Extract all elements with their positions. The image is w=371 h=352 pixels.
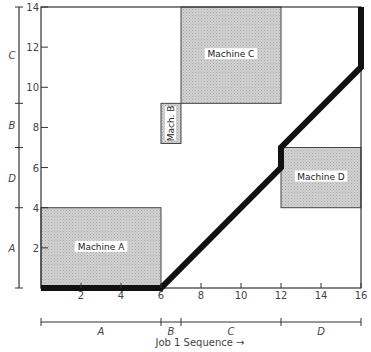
x-tick-label: 14 (315, 290, 328, 301)
y-sequence-label: C (9, 50, 16, 61)
y-tick-label: 10 (26, 82, 39, 93)
y-tick-label: 6 (33, 163, 39, 174)
gantt-diagram: Machine AMach. BMachine CMachine D 24681… (0, 0, 371, 352)
x-tick-label: 6 (158, 290, 164, 301)
x-tick-label: 16 (355, 290, 368, 301)
machine-label: Mach. B (166, 105, 176, 141)
x-sequence-label: D (317, 326, 325, 337)
x-tick-label: 4 (118, 290, 124, 301)
machine-label: Machine A (78, 242, 126, 252)
x-tick-label: 12 (275, 290, 288, 301)
y-sequence-label: B (9, 120, 16, 131)
x-tick-label: 8 (198, 290, 204, 301)
x-tick-label: 10 (235, 290, 248, 301)
machine-label: Machine D (297, 172, 345, 182)
x-axis-caption: Job 1 Sequence → (154, 337, 244, 348)
x-axis-ticks: 246810121416 (78, 283, 368, 301)
x-sequence-label: A (97, 326, 105, 337)
x-tick-label: 2 (78, 290, 84, 301)
y-tick-label: 2 (33, 243, 39, 254)
x-sequence-bracket: ABCD (41, 318, 361, 337)
y-tick-label: 12 (26, 42, 39, 53)
y-sequence-bracket: ADBC (8, 7, 23, 288)
y-tick-label: 14 (26, 2, 39, 13)
y-sequence-label: A (8, 243, 16, 254)
y-sequence-label: D (8, 173, 16, 184)
y-tick-label: 8 (33, 122, 39, 133)
x-sequence-label: B (168, 326, 175, 337)
y-tick-label: 4 (33, 203, 39, 214)
x-sequence-label: C (228, 326, 235, 337)
machine-label: Machine C (208, 49, 255, 59)
